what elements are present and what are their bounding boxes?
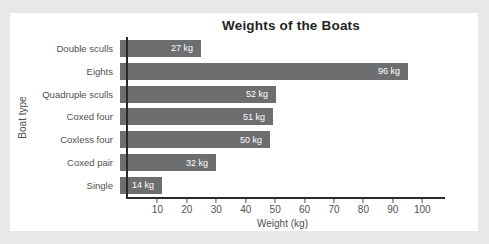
x-tick-mark <box>392 199 393 203</box>
bar-row: Single14 kg <box>10 177 435 194</box>
category-label: Coxed four <box>10 111 120 122</box>
x-tick-label: 10 <box>152 204 163 215</box>
x-tick-label: 50 <box>270 204 281 215</box>
category-label: Single <box>10 180 120 191</box>
bar-value-label: 51 kg <box>243 112 265 122</box>
bar-value-label: 50 kg <box>240 135 262 145</box>
x-tick-mark <box>275 199 276 203</box>
chart-card: Weights of the Boats Boat type Double sc… <box>10 13 478 231</box>
bar-track: 52 kg <box>120 86 435 103</box>
x-tick-mark <box>363 199 364 203</box>
x-tick: 70 <box>328 199 339 215</box>
bar: 27 kg <box>120 40 201 57</box>
bar: 51 kg <box>120 108 273 125</box>
bar-track: 27 kg <box>120 40 435 57</box>
x-tick-label: 70 <box>328 204 339 215</box>
bar: 96 kg <box>120 63 408 80</box>
bar-track: 96 kg <box>120 63 435 80</box>
category-label: Coxless four <box>10 134 120 145</box>
x-tick-mark <box>334 199 335 203</box>
x-tick-label: 90 <box>387 204 398 215</box>
bar: 52 kg <box>120 86 276 103</box>
x-tick-mark <box>245 199 246 203</box>
bar-track: 32 kg <box>120 154 435 171</box>
x-tick: 100 <box>414 199 431 215</box>
bar-row: Quadruple sculls52 kg <box>10 86 435 103</box>
bar-row: Coxed four51 kg <box>10 108 435 125</box>
x-tick: 90 <box>387 199 398 215</box>
x-tick-label: 20 <box>181 204 192 215</box>
x-tick: 30 <box>211 199 222 215</box>
page-background: { "page": { "background_color": "#eae7e7… <box>0 0 489 244</box>
x-axis-label: Weight (kg) <box>128 218 437 229</box>
category-label: Eights <box>10 66 120 77</box>
bar-row: Eights96 kg <box>10 63 435 80</box>
bar-value-label: 32 kg <box>186 158 208 168</box>
x-tick: 80 <box>358 199 369 215</box>
bar-row: Coxed pair32 kg <box>10 154 435 171</box>
x-tick: 40 <box>240 199 251 215</box>
x-tick-label: 80 <box>358 204 369 215</box>
bar-track: 51 kg <box>120 108 435 125</box>
category-label: Quadruple sculls <box>10 89 120 100</box>
bar-value-label: 52 kg <box>246 89 268 99</box>
x-tick-mark <box>186 199 187 203</box>
bar-rows: Double sculls27 kgEights96 kgQuadruple s… <box>10 37 435 197</box>
x-tick-label: 60 <box>299 204 310 215</box>
y-axis-line <box>126 37 128 199</box>
x-tick: 50 <box>270 199 281 215</box>
category-label: Double sculls <box>10 43 120 54</box>
category-label: Coxed pair <box>10 157 120 168</box>
x-tick-label: 30 <box>211 204 222 215</box>
bar-row: Coxless four50 kg <box>10 131 435 148</box>
bar-track: 14 kg <box>120 177 435 194</box>
x-tick-label: 100 <box>414 204 431 215</box>
bar-row: Double sculls27 kg <box>10 40 435 57</box>
x-ticks: 102030405060708090100 <box>128 199 437 219</box>
chart-title: Weights of the Boats <box>126 18 456 33</box>
x-tick-mark <box>157 199 158 203</box>
x-tick-mark <box>216 199 217 203</box>
bar-track: 50 kg <box>120 131 435 148</box>
x-tick: 10 <box>152 199 163 215</box>
x-tick-label: 40 <box>240 204 251 215</box>
bar-value-label: 14 kg <box>132 180 154 190</box>
x-tick-mark <box>422 199 423 203</box>
bar: 32 kg <box>120 154 216 171</box>
bar-value-label: 96 kg <box>378 66 400 76</box>
x-tick: 20 <box>181 199 192 215</box>
x-tick-mark <box>304 199 305 203</box>
bar-value-label: 27 kg <box>171 43 193 53</box>
x-tick: 60 <box>299 199 310 215</box>
bar: 50 kg <box>120 131 270 148</box>
